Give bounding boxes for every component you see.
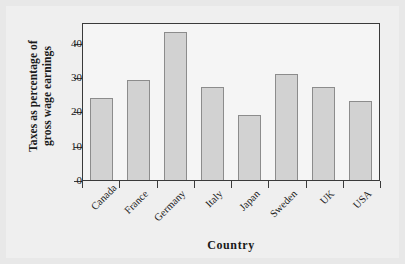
y-axis-title-line-1: Taxes as percentage of: [26, 40, 40, 152]
bar-slot: [305, 24, 342, 180]
bar-japan[interactable]: [238, 115, 260, 180]
x-axis-tick: [268, 181, 269, 188]
bar-slot: [83, 24, 120, 180]
bar-slot: [231, 24, 268, 180]
y-axis-tick-label: 0: [38, 174, 82, 186]
bar-sweden[interactable]: [275, 74, 297, 180]
plot-area: [82, 23, 380, 181]
y-axis-tick-label: 40: [38, 37, 82, 49]
bar-slot: [268, 24, 305, 180]
y-axis-title-line-2: gross wage earnings: [40, 46, 54, 146]
bar-usa[interactable]: [349, 101, 371, 180]
x-axis-tick: [306, 181, 307, 188]
x-axis-tick: [343, 181, 344, 188]
bar-series: [83, 24, 379, 180]
bar-slot: [342, 24, 379, 180]
bar-italy[interactable]: [201, 87, 223, 180]
x-axis-tick: [157, 181, 158, 188]
chart-figure: Taxes as percentage of gross wage earnin…: [6, 6, 399, 258]
bar-slot: [120, 24, 157, 180]
bar-slot: [194, 24, 231, 180]
bar-slot: [157, 24, 194, 180]
x-axis-tick: [194, 181, 195, 188]
bar-germany[interactable]: [164, 32, 186, 180]
bar-uk[interactable]: [312, 87, 334, 180]
y-axis-tick-label: 30: [38, 71, 82, 83]
bar-canada[interactable]: [90, 98, 112, 180]
x-axis-title: Country: [82, 238, 380, 253]
bar-france[interactable]: [127, 80, 149, 180]
x-axis-tick: [119, 181, 120, 188]
y-axis-tick-label: 10: [38, 140, 82, 152]
x-axis-category-labels: CanadaFranceGermanyItalyJapanSwedenUKUSA: [82, 188, 380, 234]
y-axis-tick-label: 20: [38, 105, 82, 117]
x-axis-tick: [82, 181, 83, 188]
x-axis-label-canada: Canada: [89, 188, 113, 212]
x-axis-tick: [231, 181, 232, 188]
x-axis-tick: [380, 181, 381, 188]
